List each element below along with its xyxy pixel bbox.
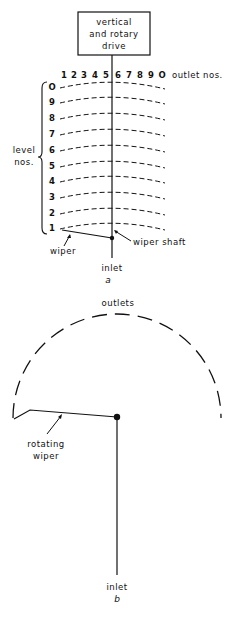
level-label: level (13, 145, 36, 155)
level-number: 7 (49, 129, 55, 139)
arrowhead-icon (67, 234, 71, 238)
diagram-a: vertical and rotary drive 1 2 3 4 5 6 7 … (13, 12, 223, 285)
caption-b: b (114, 594, 120, 604)
level-number: 4 (49, 176, 55, 186)
outlet-number: 3 (81, 70, 87, 80)
inlet-label-a: inlet (101, 263, 122, 273)
outlet-number: 9 (148, 70, 154, 80)
wiper-pivot (110, 236, 114, 240)
drive-box-line2: and rotary (89, 29, 138, 39)
level-number: 1 (49, 223, 55, 233)
level-number: 8 (49, 113, 55, 123)
selector-switch-diagram: vertical and rotary drive 1 2 3 4 5 6 7 … (0, 0, 231, 618)
rotating-wiper-arm (14, 410, 117, 419)
rotating-wiper-label: rotating (27, 439, 65, 449)
level-brace (38, 82, 47, 234)
rotating-wiper-label: wiper (33, 451, 59, 461)
outlet-numbers: 1 2 3 4 5 6 7 8 9 O (61, 70, 166, 80)
outlet-number: 5 (103, 70, 109, 80)
drive-box-line1: vertical (96, 17, 132, 27)
caption-a: a (105, 275, 111, 285)
level-number: 2 (49, 208, 55, 218)
arrowhead-icon (58, 414, 62, 419)
level-number: O (48, 82, 55, 92)
wiper-label: wiper (50, 246, 76, 256)
outlet-number: 4 (92, 70, 98, 80)
outlet-number: 7 (126, 70, 132, 80)
outlet-number: 8 (137, 70, 143, 80)
shaft-pointer-arrow (115, 231, 131, 241)
outlet-number: O (158, 70, 165, 80)
outlets-arc (13, 314, 221, 418)
level-numbers: O 9 8 7 6 5 4 3 2 1 (48, 82, 55, 233)
outlets-label: outlets (102, 298, 135, 308)
outlet-nos-label: outlet nos. (172, 70, 223, 80)
level-number: 5 (49, 161, 55, 171)
diagram-svg: vertical and rotary drive 1 2 3 4 5 6 7 … (0, 0, 231, 618)
inlet-label-b: inlet (106, 582, 127, 592)
level-label: nos. (14, 157, 34, 167)
diagram-b: outlets rotating wiper inlet b (13, 298, 221, 604)
wiper-shaft-label: wiper shaft (133, 237, 186, 247)
drive-box-line3: drive (102, 41, 126, 51)
outlet-number: 1 (61, 70, 67, 80)
outlet-number: 2 (71, 70, 77, 80)
outlet-number: 6 (115, 70, 121, 80)
level-number: 3 (49, 192, 55, 202)
level-number: 9 (49, 97, 55, 107)
level-number: 6 (49, 145, 55, 155)
rotating-wiper-pointer (47, 416, 61, 434)
